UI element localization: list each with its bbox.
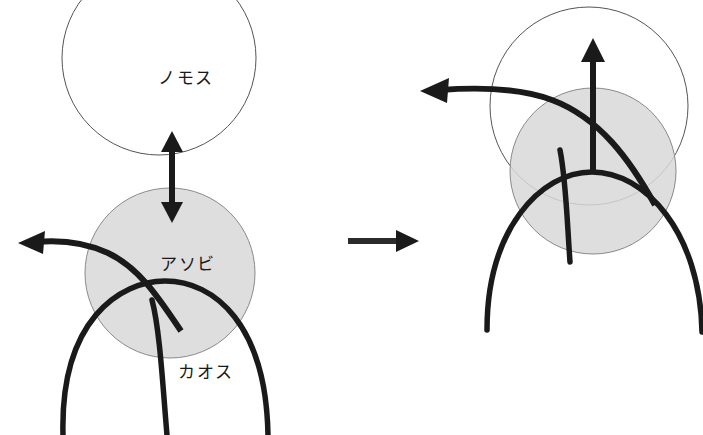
transition-arrow [348,230,419,252]
label-chaos: カオス [178,362,234,382]
transition-arrow-head [396,230,419,252]
figure-root: ノモス アソビ カオス [0,0,703,435]
left-double-arrow-head-up [161,131,183,152]
right-up-arrow-head [581,38,605,62]
diagram-canvas: ノモス アソビ カオス [0,0,703,435]
label-nomos: ノモス [158,68,214,88]
right-escape-arrow-head [420,78,449,103]
right-panel [420,7,702,332]
left-escape-arrow-head [18,231,45,254]
label-asobi: アソビ [160,254,216,274]
left-panel: ノモス アソビ カオス [18,0,268,435]
